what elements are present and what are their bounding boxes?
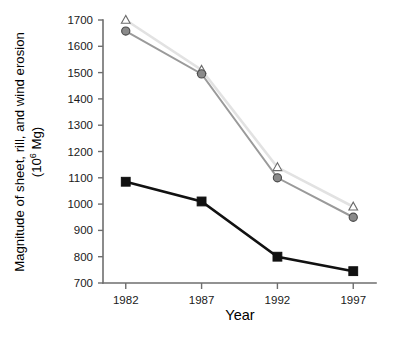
y-tick-label: 1100 xyxy=(68,172,93,184)
x-axis-group: 1982198719921997 xyxy=(103,283,376,306)
x-axis-ticks xyxy=(126,283,354,289)
x-tick-label: 1982 xyxy=(113,294,139,306)
y-axis-units-pre: (10 xyxy=(29,158,44,177)
x-axis-title: Year xyxy=(225,307,254,323)
y-axis-title-line2: (106 Mg) xyxy=(28,127,44,177)
figure-caption-strip xyxy=(0,336,395,345)
erosion-line-chart-figure: 7008009001000110012001300140015001600170… xyxy=(0,0,395,345)
x-axis-tick-labels: 1982198719921997 xyxy=(113,294,366,306)
y-axis-title: Magnitude of sheet, rill, and wind erosi… xyxy=(12,32,44,272)
y-tick-label: 1200 xyxy=(67,146,93,158)
y-tick-label: 1500 xyxy=(67,67,93,79)
y-tick-label: 1300 xyxy=(67,119,93,131)
y-tick-label: 1700 xyxy=(67,14,93,26)
series-markers xyxy=(121,15,357,275)
y-tick-label: 900 xyxy=(74,224,93,236)
data-point-marker xyxy=(121,177,130,186)
x-tick-label: 1992 xyxy=(265,294,291,306)
y-axis-units-post: Mg) xyxy=(29,127,44,153)
y-tick-label: 800 xyxy=(74,251,93,263)
x-tick-label: 1997 xyxy=(340,294,366,306)
data-point-marker xyxy=(197,70,205,78)
data-point-marker xyxy=(197,197,206,206)
y-tick-label: 1400 xyxy=(67,93,93,105)
y-axis-tick-labels: 7008009001000110012001300140015001600170… xyxy=(67,14,93,289)
y-axis-group: 7008009001000110012001300140015001600170… xyxy=(67,14,103,289)
x-tick-label: 1987 xyxy=(189,294,215,306)
data-point-marker xyxy=(273,252,282,261)
data-point-marker xyxy=(273,174,281,182)
y-axis-title-line1: Magnitude of sheet, rill, and wind erosi… xyxy=(12,32,27,272)
data-point-marker xyxy=(122,27,130,35)
series-lines xyxy=(126,20,354,271)
series-line-filled-square-series xyxy=(126,182,354,271)
y-tick-label: 700 xyxy=(74,277,93,289)
series-line-open-triangle-series xyxy=(126,20,354,207)
data-point-marker xyxy=(121,15,130,23)
data-point-marker xyxy=(349,213,357,221)
y-tick-label: 1600 xyxy=(67,40,93,52)
chart-plot-area: 7008009001000110012001300140015001600170… xyxy=(0,0,395,345)
data-point-marker xyxy=(349,267,358,276)
y-tick-label: 1000 xyxy=(67,198,93,210)
